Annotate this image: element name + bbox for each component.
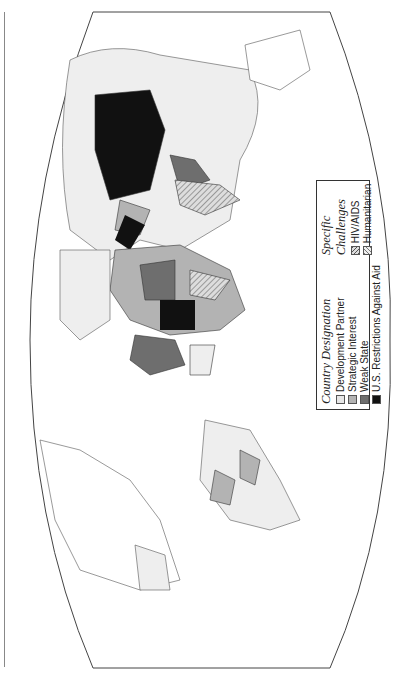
legend-title: Specific Challenges bbox=[319, 184, 349, 255]
swatch-icon bbox=[372, 395, 381, 404]
legend-item-us-restrictions: U.S. Restrictions Against Aid bbox=[371, 265, 382, 404]
hatch-swatch-icon bbox=[351, 246, 360, 255]
legend-item-hiv-aids: HIV/AIDS bbox=[350, 184, 361, 255]
swatch-icon bbox=[336, 395, 345, 404]
legend-item-weak-state: Weak State bbox=[359, 265, 370, 404]
legend-country-designation: Country Designation Development Partner … bbox=[319, 265, 367, 404]
legend-item-humanitarian: Humanitarian bbox=[362, 184, 373, 255]
legend-item-development-partner: Development Partner bbox=[335, 265, 346, 404]
map-legend: Country Designation Development Partner … bbox=[316, 180, 370, 410]
legend-specific-challenges: Specific Challenges HIV/AIDS Humanitaria… bbox=[319, 184, 367, 255]
swatch-icon bbox=[348, 395, 357, 404]
hatch-swatch-icon bbox=[363, 246, 372, 255]
legend-title: Country Designation bbox=[319, 265, 334, 404]
swatch-icon bbox=[360, 395, 369, 404]
legend-item-strategic-interest: Strategic Interest bbox=[347, 265, 358, 404]
